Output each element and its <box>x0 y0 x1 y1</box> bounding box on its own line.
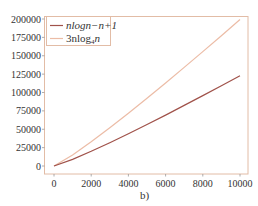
x-tick-label: 0 <box>52 178 57 189</box>
series-line-nlogn-n-plus-1 <box>54 76 240 166</box>
legend: nlogn−n+1 3nlog4n <box>47 17 117 47</box>
y-axis: 0250005000075000100000125000150000175000… <box>11 14 45 172</box>
y-tick-label: 175000 <box>11 32 41 43</box>
figure-caption: b) <box>140 189 150 202</box>
x-axis: 0200040006000800010000 <box>52 174 253 189</box>
legend-label-2: 3nlog4n <box>66 32 101 46</box>
x-tick-label: 10000 <box>228 178 253 189</box>
y-tick-label: 200000 <box>11 14 41 25</box>
chart: 0250005000075000100000125000150000175000… <box>0 0 258 206</box>
x-tick-label: 4000 <box>118 178 138 189</box>
y-tick-label: 0 <box>36 161 41 172</box>
y-tick-label: 75000 <box>16 105 41 116</box>
y-tick-label: 50000 <box>16 124 41 135</box>
x-tick-label: 6000 <box>156 178 176 189</box>
y-tick-label: 150000 <box>11 50 41 61</box>
y-tick-label: 125000 <box>11 69 41 80</box>
legend-label-1: nlogn−n+1 <box>66 19 117 31</box>
x-tick-label: 8000 <box>193 178 213 189</box>
y-tick-label: 100000 <box>11 87 41 98</box>
y-tick-label: 25000 <box>16 142 41 153</box>
x-tick-label: 2000 <box>81 178 101 189</box>
